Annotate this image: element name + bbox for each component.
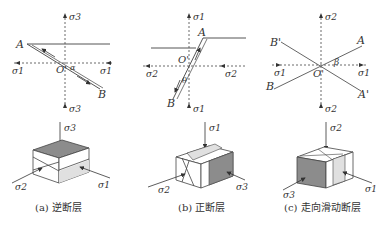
angle-label: α bbox=[70, 63, 76, 72]
block-top-label: σ2 bbox=[330, 123, 342, 133]
sigma-left-label: σ1 bbox=[12, 66, 24, 76]
sigma-top-label: σ3 bbox=[69, 12, 81, 22]
sigma-right-label: σ2 bbox=[225, 69, 237, 79]
point-b-prime-label: B' bbox=[269, 36, 281, 49]
point-a-label: A bbox=[356, 34, 365, 47]
angle-label: θ bbox=[182, 76, 187, 85]
sigma-top-label: σ1 bbox=[193, 12, 205, 22]
block-b-normal-fault: σ1 σ2 σ3 bbox=[148, 122, 248, 195]
arrow-icon bbox=[63, 13, 67, 18]
arrow-icon bbox=[63, 103, 67, 108]
sigma-right-label: σ1 bbox=[358, 68, 370, 78]
block-c-strike-slip-fault: σ2 σ3 σ1 bbox=[283, 122, 377, 200]
arrow-icon bbox=[15, 61, 20, 65]
point-b-label: B bbox=[166, 97, 175, 110]
sigma-right-label: σ1 bbox=[100, 66, 112, 76]
origin-label: O' bbox=[313, 68, 324, 79]
block-left-label: σ2 bbox=[158, 185, 170, 195]
block-right-label: σ3 bbox=[236, 182, 248, 192]
block-a-reverse-fault: σ3 σ2 σ1 bbox=[12, 122, 110, 192]
block-left-label: σ3 bbox=[283, 190, 295, 200]
sigma-bottom-label: σ3 bbox=[69, 104, 81, 114]
angle-label: β bbox=[333, 57, 339, 67]
block-left-label: σ2 bbox=[15, 182, 27, 192]
fault-stress-diagram: σ3 σ3 σ1 σ1 A B O' α σ1 σ1 σ2 σ2 bbox=[0, 0, 391, 226]
block-top-label: σ3 bbox=[64, 123, 76, 133]
block-right-label: σ1 bbox=[365, 184, 377, 194]
origin-label: O' bbox=[178, 54, 189, 65]
caption-a: (a) 逆断层 bbox=[35, 201, 82, 213]
point-b-label: B bbox=[97, 88, 106, 101]
sigma-bottom-label: σ1 bbox=[193, 104, 205, 114]
panel-b-stress-plane: σ1 σ1 σ2 σ2 A B O' θ bbox=[143, 12, 246, 114]
arrow-icon bbox=[106, 61, 111, 65]
origin-label: O' bbox=[56, 64, 67, 75]
block-top-label: σ1 bbox=[209, 123, 221, 133]
sigma-bottom-label: σ2 bbox=[325, 104, 337, 114]
block-right-label: σ1 bbox=[98, 180, 110, 190]
panel-a-stress-plane: σ3 σ3 σ1 σ1 A B O' α bbox=[12, 12, 112, 114]
point-a-prime-label: A' bbox=[357, 88, 369, 101]
point-b-label: B bbox=[265, 80, 274, 93]
sigma-left-label: σ2 bbox=[146, 69, 158, 79]
sigma-left-label: σ1 bbox=[274, 68, 286, 78]
point-a-label: A bbox=[197, 26, 206, 39]
caption-b: (b) 正断层 bbox=[178, 201, 225, 213]
sigma-top-label: σ2 bbox=[325, 12, 337, 22]
caption-c: (c) 走向滑动断层 bbox=[284, 201, 361, 213]
panel-c-stress-plane: σ2 σ2 σ1 σ1 B' A B A' O' β bbox=[265, 12, 370, 114]
point-a-label: A bbox=[15, 38, 24, 51]
